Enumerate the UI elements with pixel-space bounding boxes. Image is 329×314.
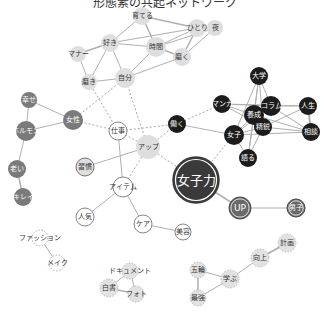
node-migaki[interactable]: 磨き: [81, 74, 97, 90]
node-label: メイク: [47, 259, 68, 267]
node-label: ドキュメント: [109, 267, 151, 275]
node-label: 老い: [10, 164, 24, 173]
node-hitori[interactable]: ひとり: [187, 19, 208, 37]
node-label: 女性: [66, 115, 80, 124]
node-label: 語る: [241, 153, 255, 162]
node-hataraku[interactable]: 働く: [168, 115, 186, 133]
node-label: 人気: [78, 212, 92, 221]
node-gorin[interactable]: 五輪: [190, 262, 206, 278]
node-ninki[interactable]: 人気: [76, 208, 94, 226]
node-label: UP: [234, 203, 247, 213]
node-up[interactable]: UP: [229, 197, 251, 219]
node-danshi[interactable]: 男子: [287, 199, 305, 217]
node-label: 向上: [253, 253, 267, 262]
node-yoru[interactable]: 夜: [207, 20, 223, 36]
node-label: 美容: [176, 227, 190, 236]
node-seiei[interactable]: 精鋭: [254, 118, 272, 136]
node-label: 学ぶ: [223, 274, 237, 283]
node-label: 育てる: [132, 11, 153, 20]
node-oi[interactable]: 老い: [8, 160, 26, 178]
node-label: フォト: [126, 290, 147, 298]
node-label: 男子: [289, 204, 303, 212]
node-jikan[interactable]: 時間: [146, 37, 166, 57]
node-label: 大学: [252, 71, 266, 80]
node-jibun[interactable]: 自分: [115, 68, 135, 88]
node-kirei[interactable]: キレイ: [13, 188, 34, 206]
node-label: 白書: [102, 283, 116, 292]
node-manner[interactable]: マナー: [68, 46, 89, 62]
edge-joshi-sodan: [234, 132, 311, 135]
node-hakusho[interactable]: 白書: [100, 279, 118, 297]
node-shukan[interactable]: 習慣: [76, 158, 94, 176]
node-biyo[interactable]: 美容: [175, 224, 191, 240]
node-care[interactable]: ケア: [134, 215, 152, 233]
node-joshi[interactable]: 女子: [224, 125, 244, 145]
node-suki[interactable]: 好き: [101, 34, 119, 52]
node-label: 養成: [247, 110, 261, 119]
node-label: 幸せ: [22, 96, 36, 104]
node-jinsei[interactable]: 人生: [299, 97, 317, 115]
node-migaku[interactable]: 磨く: [173, 48, 191, 66]
edge-jibun-josei: [73, 78, 125, 120]
node-label: 働く: [170, 119, 184, 128]
node-item[interactable]: アイテム: [109, 177, 137, 197]
node-label: マナー: [68, 50, 89, 58]
node-label: アイテム: [109, 183, 137, 191]
node-label: 夜: [212, 23, 219, 32]
node-label: ひとり: [187, 24, 208, 32]
node-kataru[interactable]: 語る: [239, 149, 257, 167]
node-label: コラム: [261, 102, 282, 110]
node-keikaku[interactable]: 計画: [278, 234, 296, 252]
node-photo[interactable]: フォト: [126, 286, 147, 302]
node-hormone[interactable]: ホルモン: [12, 121, 40, 141]
node-fashion[interactable]: ファッション: [19, 230, 61, 246]
node-document[interactable]: ドキュメント: [109, 263, 151, 279]
node-label: 磨く: [175, 52, 189, 61]
node-label: マンガ: [212, 99, 233, 108]
node-label: 人生: [301, 101, 315, 110]
node-manabu[interactable]: 学ぶ: [221, 270, 239, 288]
node-label: 女子: [227, 130, 241, 139]
node-kojo[interactable]: 向上: [251, 249, 269, 267]
node-label: 時間: [149, 43, 163, 51]
node-label: 自分: [118, 73, 132, 82]
node-label: ホルモン: [12, 127, 40, 135]
node-label: 磨き: [82, 77, 96, 86]
node-manga[interactable]: マンガ: [212, 95, 233, 113]
node-label: 相談: [304, 127, 318, 136]
node-daigaku[interactable]: 大学: [250, 67, 268, 85]
node-joshiryoku[interactable]: 女子力: [173, 157, 219, 203]
node-label: ファッション: [19, 234, 61, 242]
node-sodan[interactable]: 相談: [302, 123, 320, 141]
node-shiawase[interactable]: 幸せ: [21, 92, 37, 108]
node-label: 女子力: [177, 173, 216, 188]
node-label: 仕事: [111, 126, 125, 135]
node-josei[interactable]: 女性: [63, 110, 83, 130]
node-label: ケア: [136, 220, 150, 228]
node-label: キレイ: [13, 193, 34, 201]
node-label: 五輪: [191, 265, 205, 274]
node-layer: 育てるひとり夜好き時間磨くマナー自分磨き幸せ女性ホルモン老いキレイ仕事アップ働く…: [8, 7, 320, 306]
node-make[interactable]: メイク: [47, 255, 68, 271]
node-saikyo[interactable]: 最強: [190, 290, 206, 306]
node-label: 好き: [103, 38, 117, 47]
node-label: 計画: [280, 238, 294, 247]
node-label: 精鋭: [256, 122, 270, 131]
node-label: アップ: [138, 143, 159, 151]
node-label: 最強: [191, 294, 205, 302]
co-occurrence-network: 育てるひとり夜好き時間磨くマナー自分磨き幸せ女性ホルモン老いキレイ仕事アップ働く…: [0, 0, 329, 314]
node-label: 習慣: [78, 162, 92, 171]
node-up_kana[interactable]: アップ: [136, 135, 160, 159]
node-shigoto[interactable]: 仕事: [109, 122, 127, 140]
